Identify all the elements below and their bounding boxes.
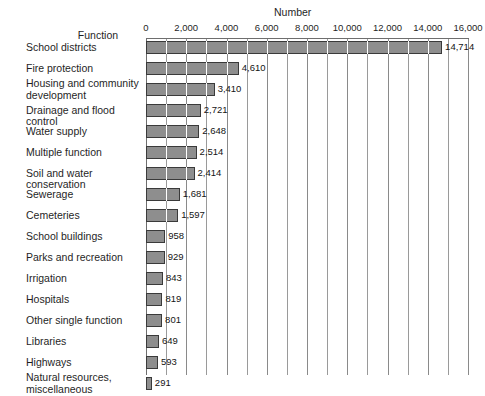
bar-gridline-mark <box>166 62 167 75</box>
bar-value-label: 1,681 <box>183 187 207 201</box>
category-label-line: School buildings <box>26 231 140 243</box>
bar <box>146 146 197 159</box>
plot-area: 14,7144,6103,4102,7212,6482,5142,4141,68… <box>146 39 468 375</box>
x-axis-tick-labels: 02,0004,0006,0008,00010,00012,00014,0001… <box>0 22 485 36</box>
bar <box>146 188 180 201</box>
x-tick-label: 16,000 <box>453 22 482 33</box>
bar-value-label: 2,514 <box>200 145 224 159</box>
category-label-line: Multiple function <box>26 147 140 159</box>
bar-gridline-mark <box>166 146 167 159</box>
bar-gridline-mark <box>428 41 429 54</box>
category-label-line: development <box>26 90 140 102</box>
bar-gridline-mark <box>327 41 328 54</box>
bar-gridline-mark <box>206 62 207 75</box>
bar <box>146 167 195 180</box>
bar <box>146 251 165 264</box>
bar-row: 593 <box>146 353 468 374</box>
category-label-line: Cemeteries <box>26 210 140 222</box>
bar-value-label: 291 <box>155 376 171 390</box>
bar-gridline-mark <box>408 41 409 54</box>
category-label-line: Parks and recreation <box>26 252 140 264</box>
category-label-line: Other single function <box>26 315 140 327</box>
category-label: Highways <box>26 357 140 369</box>
bar-value-label: 958 <box>168 229 184 243</box>
category-label-line: Irrigation <box>26 273 140 285</box>
category-label: Multiple function <box>26 147 140 159</box>
bar-value-label: 2,414 <box>198 166 222 180</box>
gridline <box>468 39 469 375</box>
bar <box>146 293 162 306</box>
bar-gridline-mark <box>206 41 207 54</box>
category-label: Hospitals <box>26 294 140 306</box>
x-tick-label: 12,000 <box>373 22 402 33</box>
bar-value-label: 1,597 <box>181 208 205 222</box>
bar <box>146 104 201 117</box>
bar-gridline-mark <box>166 83 167 96</box>
bar <box>146 230 165 243</box>
category-label: Sewerage <box>26 189 140 201</box>
bar-value-label: 4,610 <box>242 61 266 75</box>
bar-row: 819 <box>146 290 468 311</box>
bar-gridline-mark <box>166 125 167 138</box>
category-label-line: Sewerage <box>26 189 140 201</box>
category-label-line: Water supply <box>26 126 140 138</box>
x-tick-label: 0 <box>143 22 148 33</box>
category-label: Irrigation <box>26 273 140 285</box>
bar-value-label: 843 <box>166 271 182 285</box>
bar-gridline-mark <box>227 41 228 54</box>
bar <box>146 272 163 285</box>
category-label-line: Libraries <box>26 336 140 348</box>
bar <box>146 62 239 75</box>
bar-row: 1,681 <box>146 185 468 206</box>
bar <box>146 377 152 390</box>
category-label: Housing and communitydevelopment <box>26 78 140 101</box>
bar-row: 291 <box>146 374 468 395</box>
bar <box>146 41 442 54</box>
bar-value-label: 2,721 <box>204 103 228 117</box>
bar-gridline-mark <box>186 41 187 54</box>
bar-row: 2,721 <box>146 101 468 122</box>
bar <box>146 335 159 348</box>
category-label-line: Natural resources, <box>26 372 140 384</box>
bar <box>146 209 178 222</box>
bar <box>146 125 199 138</box>
bar-row: 14,714 <box>146 38 468 59</box>
category-label: School buildings <box>26 231 140 243</box>
category-label: Natural resources,miscellaneous <box>26 372 140 395</box>
bar-value-label: 649 <box>162 334 178 348</box>
bar-gridline-mark <box>247 41 248 54</box>
category-label: Fire protection <box>26 63 140 75</box>
bar-gridline-mark <box>166 167 167 180</box>
bar-gridline-mark <box>186 146 187 159</box>
category-label-line: miscellaneous <box>26 384 140 396</box>
bar-row: 958 <box>146 227 468 248</box>
category-label-line: Hospitals <box>26 294 140 306</box>
bar-gridline-mark <box>166 41 167 54</box>
bar <box>146 356 158 369</box>
bar-gridline-mark <box>367 41 368 54</box>
category-label-line: Highways <box>26 357 140 369</box>
bar-row: 843 <box>146 269 468 290</box>
category-label: Libraries <box>26 336 140 348</box>
bar-row: 929 <box>146 248 468 269</box>
bar-row: 2,414 <box>146 164 468 185</box>
bar-gridline-mark <box>388 41 389 54</box>
x-tick-label: 6,000 <box>255 22 279 33</box>
bar-gridline-mark <box>166 209 167 222</box>
category-label: School districts <box>26 42 140 54</box>
bar-value-label: 593 <box>161 355 177 369</box>
bar-gridline-mark <box>186 125 187 138</box>
x-axis-title: Number <box>274 6 311 18</box>
bar-row: 801 <box>146 311 468 332</box>
bar-gridline-mark <box>186 167 187 180</box>
bar-gridline-mark <box>307 41 308 54</box>
bar-row: 4,610 <box>146 59 468 80</box>
x-tick-label: 14,000 <box>413 22 442 33</box>
bar-value-label: 14,714 <box>445 40 474 54</box>
bar-gridline-mark <box>267 41 268 54</box>
x-tick-label: 4,000 <box>215 22 239 33</box>
bar-row: 1,597 <box>146 206 468 227</box>
category-label: Water supply <box>26 126 140 138</box>
bar-gridline-mark <box>206 83 207 96</box>
bar-value-label: 801 <box>165 313 181 327</box>
